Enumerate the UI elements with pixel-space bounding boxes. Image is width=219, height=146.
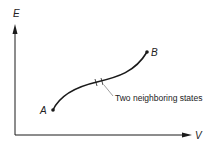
y-axis-arrow-icon [13, 24, 18, 34]
state-point-b [145, 50, 149, 54]
y-axis-label: E [13, 8, 20, 19]
x-axis-arrow-icon [182, 133, 192, 138]
state-point-a [51, 108, 55, 112]
state-label-b: B [151, 47, 158, 58]
x-axis-label: V [195, 130, 203, 141]
annotation-leader [104, 85, 113, 96]
ev-diagram: E V A B Two neighboring states [0, 0, 219, 146]
state-label-a: A [39, 105, 47, 116]
annotation-text: Two neighboring states [115, 93, 202, 103]
